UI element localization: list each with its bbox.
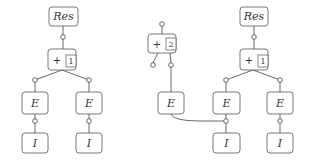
leaf-node-right: I [76, 133, 102, 153]
leaf-node-left: I [22, 133, 48, 153]
expr-label: E [30, 97, 39, 110]
plus-label: + [245, 55, 253, 66]
left-tree: Res + 1 E E I I [22, 7, 102, 153]
expr-label: E [221, 97, 230, 110]
plus-node-2: + 2 [148, 34, 176, 53]
expr-node-right: E [267, 92, 293, 114]
expr-node-right: E [76, 92, 102, 114]
expr-label: E [275, 97, 284, 110]
plus-index: 1 [68, 57, 73, 66]
plus-index: 1 [260, 57, 265, 66]
expr-node-middle: E [158, 92, 184, 114]
leaf-node-right: I [267, 133, 293, 153]
leaf-label: I [277, 137, 283, 150]
plus-node: + 1 [240, 49, 268, 70]
res-label: Res [52, 10, 74, 23]
plus-label: + [53, 55, 61, 66]
leaf-label: I [32, 137, 38, 150]
expr-label: E [166, 97, 175, 110]
res-node: Res [49, 7, 78, 26]
expr-node-left: E [213, 92, 240, 114]
diagram-canvas: Res + 1 E E I I [0, 0, 309, 162]
expr-node-left: E [22, 92, 48, 114]
expr-label: E [84, 97, 93, 110]
leaf-node-left: I [213, 133, 240, 153]
res-label: Res [243, 10, 265, 23]
right-tree: Res + 1 E E I I [213, 7, 293, 153]
plus-index: 2 [168, 40, 173, 49]
res-node: Res [240, 7, 268, 26]
leaf-label: I [86, 137, 92, 150]
plus-label: + [153, 39, 161, 50]
plus-node: + 1 [48, 49, 76, 70]
leaf-label: I [223, 137, 229, 150]
